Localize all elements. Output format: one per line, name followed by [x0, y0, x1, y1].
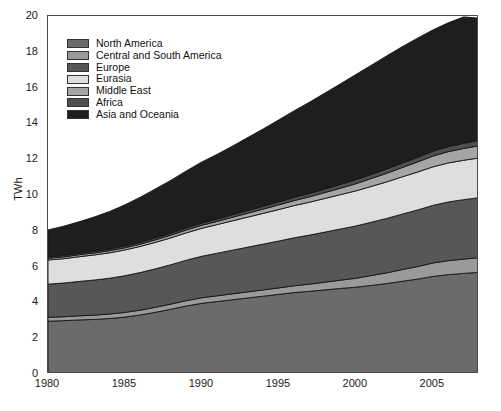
legend-item: Asia and Oceania — [67, 109, 222, 121]
chart-root: TWh 02468101214161820 198019851990199520… — [0, 0, 501, 411]
legend-item-label: Africa — [96, 97, 123, 109]
legend-swatch-icon — [67, 98, 89, 107]
y-tick-label: 6 — [10, 260, 38, 272]
x-tick-label: 1980 — [35, 377, 59, 389]
chart-legend: North AmericaCentral and South AmericaEu… — [67, 38, 222, 121]
y-tick-label: 20 — [10, 9, 38, 21]
legend-swatch-icon — [67, 51, 89, 60]
legend-item: Central and South America — [67, 50, 222, 62]
legend-item: Europe — [67, 62, 222, 74]
legend-item: Middle East — [67, 85, 222, 97]
y-tick-label: 16 — [10, 81, 38, 93]
y-axis-ticks: 02468101214161820 — [0, 0, 44, 411]
legend-swatch-icon — [67, 87, 89, 96]
legend-item-label: Central and South America — [96, 50, 222, 62]
x-tick-label: 2000 — [343, 377, 367, 389]
y-tick-label: 4 — [10, 295, 38, 307]
y-tick-label: 18 — [10, 45, 38, 57]
x-tick-label: 1995 — [266, 377, 290, 389]
legend-item-label: Asia and Oceania — [96, 109, 179, 121]
y-tick-label: 10 — [10, 188, 38, 200]
x-tick-label: 2005 — [420, 377, 444, 389]
x-tick-label: 1985 — [112, 377, 136, 389]
x-tick-label: 1990 — [189, 377, 213, 389]
legend-swatch-icon — [67, 39, 89, 48]
y-tick-label: 12 — [10, 152, 38, 164]
y-tick-label: 14 — [10, 116, 38, 128]
legend-swatch-icon — [67, 110, 89, 119]
y-tick-label: 2 — [10, 331, 38, 343]
y-tick-label: 8 — [10, 224, 38, 236]
legend-swatch-icon — [67, 63, 89, 72]
legend-item: Africa — [67, 97, 222, 109]
legend-swatch-icon — [67, 75, 89, 84]
